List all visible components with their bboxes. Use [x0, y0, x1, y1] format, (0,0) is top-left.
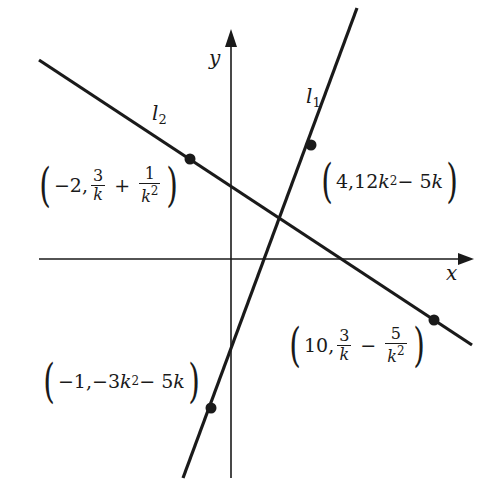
point-label-l2-right: ( 10, 3k − 5k2 )	[286, 322, 428, 368]
point-l1-top	[306, 140, 317, 151]
point-l1-bottom	[206, 403, 217, 414]
line-l1-label: l1	[306, 86, 321, 109]
x-axis-label: x	[446, 263, 457, 283]
point-label-l1-bottom: ( −1,−3k2 − 5k )	[40, 358, 203, 404]
x-axis-arrow-icon	[458, 253, 474, 265]
point-label-l2-left: ( −2, 3k + 1k2 )	[36, 162, 181, 208]
point-label-l1-top: ( 4,12k2 − 5k )	[318, 158, 461, 204]
coordinate-diagram	[0, 0, 496, 499]
y-axis-label: y	[209, 48, 220, 68]
line-l2-label: l2	[152, 103, 167, 126]
y-axis-arrow-icon	[225, 29, 237, 47]
point-l2-left	[185, 154, 196, 165]
point-l2-right	[429, 315, 440, 326]
